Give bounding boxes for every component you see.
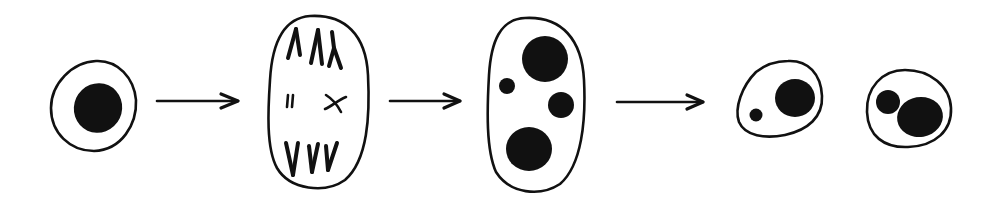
stage-4a-cell (738, 61, 823, 137)
arrow-1-icon (157, 94, 238, 108)
chromosomes-middle (287, 95, 346, 112)
nucleus (66, 75, 131, 141)
stage-4b-cell (867, 70, 951, 147)
stage-2-cell (268, 16, 368, 188)
nucleus-large (775, 79, 815, 117)
stage-1-cell (51, 61, 136, 151)
stage-3-cell (488, 18, 585, 192)
diagram-canvas (0, 0, 994, 199)
nucleus-small-left (499, 78, 515, 94)
arrow-2-icon (390, 94, 460, 108)
nucleus-medium (876, 90, 900, 114)
nucleus-medium-right (548, 92, 574, 118)
chromosomes-top (288, 29, 341, 68)
nucleus-small (750, 109, 763, 122)
cell-division-diagram (0, 0, 994, 199)
nucleus-large-bottom (506, 127, 552, 171)
nucleus-large-top (522, 36, 568, 82)
chromosomes-bottom (286, 143, 337, 175)
nucleus-large (894, 93, 946, 140)
arrow-3-icon (617, 95, 703, 109)
